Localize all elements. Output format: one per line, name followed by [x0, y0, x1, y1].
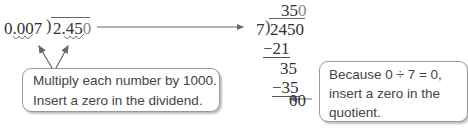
divisor: 7 — [256, 21, 265, 38]
subtract-step-1: −21 — [263, 40, 290, 57]
division-bar — [51, 17, 90, 18]
remainder-step-2: 35 — [280, 60, 297, 77]
dividend-decimal: 2.450 — [53, 20, 91, 37]
division-bracket: ) — [46, 18, 51, 34]
callout-zero-quotient: Because 0 ÷ 7 = 0, insert a zero in the … — [319, 61, 468, 122]
final-remainder: 00 — [289, 92, 306, 109]
callout-line: Because 0 ÷ 7 = 0, — [329, 65, 467, 84]
callout-line: quotient. — [329, 103, 467, 122]
callout-multiply: Multiply each number by 1000. Insert a z… — [22, 68, 220, 112]
quotient: 350 — [281, 2, 307, 19]
division-bar — [269, 18, 305, 19]
divisor-decimal: 0.007 — [4, 20, 42, 37]
callout-line: Multiply each number by 1000. — [33, 71, 219, 91]
callout-line: insert a zero in the — [329, 84, 467, 103]
subtract-line-1 — [263, 57, 290, 58]
callout-line: Insert a zero in the dividend. — [33, 91, 219, 111]
dividend: 2450 — [270, 21, 304, 38]
